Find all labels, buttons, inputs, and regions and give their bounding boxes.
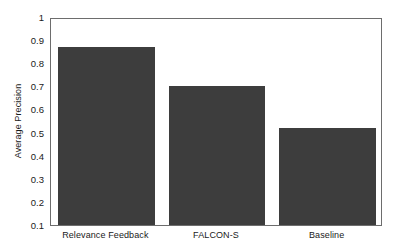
y-tick-label: 0.2 <box>0 197 44 208</box>
plot-area <box>50 18 382 226</box>
x-tick-label: FALCON-S <box>193 230 239 240</box>
bar-chart-figure: Average Precision 0.10.20.30.40.50.60.70… <box>0 0 401 252</box>
bar <box>169 86 266 225</box>
y-tick-label: 0.4 <box>0 151 44 162</box>
x-tick-label: Baseline <box>309 230 344 240</box>
x-tick-label: Relevance Feedback <box>62 230 148 240</box>
y-tick-label: 0.8 <box>0 58 44 69</box>
y-tick-label: 1 <box>0 12 44 23</box>
bar <box>58 47 155 225</box>
y-tick-label: 0.6 <box>0 104 44 115</box>
y-tick-label: 0.5 <box>0 128 44 139</box>
y-tick-label: 0.7 <box>0 81 44 92</box>
y-tick-label: 0.9 <box>0 35 44 46</box>
y-tick-label: 0.1 <box>0 220 44 231</box>
bar <box>279 128 376 225</box>
y-axis-label: Average Precision <box>13 17 27 225</box>
y-tick-label: 0.3 <box>0 174 44 185</box>
